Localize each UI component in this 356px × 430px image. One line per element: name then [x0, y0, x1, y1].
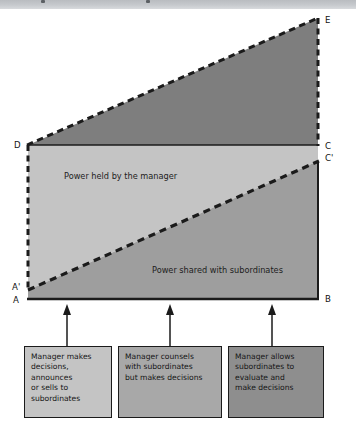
region-label-manager-power: Power held by the manager — [64, 171, 178, 181]
caption-line: or sells to — [31, 383, 106, 393]
vertex-label-c: C — [325, 141, 331, 151]
caption-line: evaluate and — [235, 373, 318, 383]
vertex-label-a-prime: A' — [12, 282, 20, 292]
vertex-label-a: A — [13, 295, 19, 305]
leadership-continuum-diagram: Power held by the manager Power shared w… — [0, 9, 356, 430]
vertex-label-b: B — [325, 294, 331, 304]
page-banner-strip — [0, 0, 356, 9]
caption-line: Manager makes — [31, 352, 106, 362]
region-label-shared-power: Power shared with subordinates — [152, 265, 283, 275]
connector-arrow-delegates — [268, 304, 276, 346]
caption-line: decisions, — [31, 362, 106, 372]
vertex-label-c-prime: C' — [325, 153, 333, 163]
banner-tick — [146, 0, 150, 3]
caption-line: subordinates to — [235, 362, 318, 372]
vertex-label-d: D — [14, 140, 21, 150]
caption-line: announces — [31, 373, 106, 383]
caption-line: Manager allows — [235, 352, 318, 362]
caption-line: with subordinates — [125, 362, 216, 372]
connector-arrow-consults — [166, 304, 174, 346]
caption-line: but makes decisions — [125, 373, 216, 383]
caption-box-consults: Manager counsels with subordinates but m… — [118, 346, 222, 418]
caption-box-delegates: Manager allows subordinates to evaluate … — [228, 346, 324, 418]
caption-line: subordinates — [31, 394, 106, 404]
caption-line: make decisions — [235, 383, 318, 393]
vertex-label-e: E — [325, 15, 330, 25]
banner-tick — [41, 0, 45, 3]
connector-arrow-tells — [63, 304, 71, 346]
caption-box-tells: Manager makes decisions, announces or se… — [24, 346, 112, 418]
caption-line: Manager counsels — [125, 352, 216, 362]
